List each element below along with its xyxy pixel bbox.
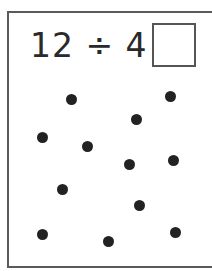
counting-dot: [57, 184, 68, 195]
answer-box[interactable]: [152, 23, 196, 67]
counting-dot: [170, 227, 181, 238]
counting-dot: [103, 236, 114, 247]
counting-dot: [37, 229, 48, 240]
counting-dot: [168, 155, 179, 166]
counting-dot: [131, 114, 142, 125]
counting-dot: [134, 200, 145, 211]
counting-dot: [124, 159, 135, 170]
counting-dot: [165, 91, 176, 102]
counting-dot: [37, 132, 48, 143]
counting-dot: [66, 94, 77, 105]
counting-dot: [82, 141, 93, 152]
